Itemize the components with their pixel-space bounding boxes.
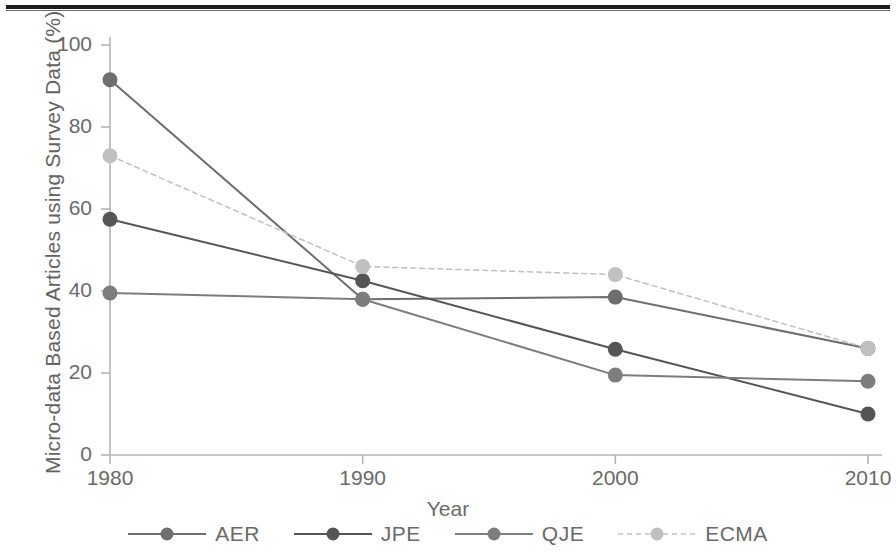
legend-label: ECMA	[705, 522, 768, 546]
axes	[101, 37, 882, 464]
data-point-jpe-1980	[103, 212, 118, 227]
data-point-qje-1990	[355, 292, 370, 307]
legend-item-qje[interactable]: QJE	[455, 522, 584, 546]
x-tick-label: 1980	[65, 466, 155, 490]
series-line-aer	[110, 80, 868, 349]
x-tick-label: 1990	[318, 466, 408, 490]
data-point-jpe-1990	[355, 273, 370, 288]
x-tick-label: 2010	[823, 466, 896, 490]
series-line-ecma	[110, 156, 868, 349]
data-series	[103, 72, 876, 421]
data-point-ecma-1980	[103, 148, 118, 163]
data-point-ecma-2010	[861, 341, 876, 356]
data-point-qje-2010	[861, 374, 876, 389]
x-tick-label: 2000	[570, 466, 660, 490]
legend-label: QJE	[542, 522, 584, 546]
legend-marker-icon	[128, 526, 206, 542]
legend-dot	[161, 528, 174, 541]
legend-marker-icon	[455, 526, 533, 542]
legend-dot	[487, 528, 500, 541]
legend-item-aer[interactable]: AER	[128, 522, 260, 546]
legend-marker-icon	[618, 526, 696, 542]
data-point-jpe-2010	[861, 407, 876, 422]
legend-label: AER	[215, 522, 260, 546]
data-point-jpe-2000	[608, 342, 623, 357]
data-point-aer-2000	[608, 290, 623, 305]
series-line-jpe	[110, 219, 868, 414]
legend-marker-icon	[294, 526, 372, 542]
data-point-ecma-1990	[355, 259, 370, 274]
legend-dot	[651, 528, 664, 541]
legend-item-jpe[interactable]: JPE	[294, 522, 421, 546]
data-point-qje-1980	[103, 286, 118, 301]
series-line-qje	[110, 293, 868, 381]
legend-label: JPE	[381, 522, 421, 546]
data-point-qje-2000	[608, 368, 623, 383]
chart-figure: Micro-data Based Articles using Survey D…	[0, 0, 896, 558]
data-point-ecma-2000	[608, 267, 623, 282]
legend-dot	[326, 528, 339, 541]
legend-item-ecma[interactable]: ECMA	[618, 522, 768, 546]
chart-legend: AERJPEQJEECMA	[0, 522, 896, 546]
data-point-aer-1980	[103, 72, 118, 87]
x-axis-title: Year	[0, 497, 896, 521]
